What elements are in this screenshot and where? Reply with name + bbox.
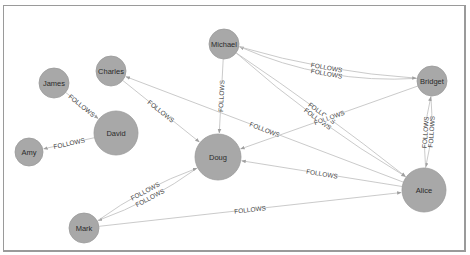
- graph-canvas[interactable]: FOLLOWSFOLLOWSFOLLOWSFOLLOWSFOLLOWSFOLLO…: [0, 0, 470, 255]
- node-bridget[interactable]: Bridget: [417, 66, 447, 96]
- edge-label: FOLLOWS: [306, 168, 339, 180]
- edge-label: FOLLOWS: [53, 136, 86, 150]
- edge-doug-to-mark[interactable]: FOLLOWS: [98, 168, 198, 221]
- edge-alice-to-charles[interactable]: FOLLOWS: [126, 77, 403, 182]
- edge-james-to-david[interactable]: FOLLOWS: [66, 92, 98, 118]
- node-label: Amy: [22, 148, 37, 157]
- node-label: Alice: [416, 186, 432, 195]
- node-amy[interactable]: Amy: [15, 138, 43, 166]
- node-label: James: [43, 79, 65, 88]
- node-michael[interactable]: Michael: [209, 29, 239, 59]
- node-label: Michael: [211, 40, 237, 49]
- nodes-layer: MichaelCharlesJamesDavidAmyDougBridgetAl…: [15, 29, 447, 243]
- edge-label: FOLLOWS: [217, 79, 226, 112]
- edge-label: FOLLOWS: [146, 98, 176, 124]
- node-david[interactable]: David: [94, 111, 138, 155]
- node-label: Doug: [209, 153, 227, 162]
- node-label: Bridget: [420, 77, 445, 86]
- edge-label: FOLLOWS: [234, 204, 267, 215]
- node-label: David: [106, 129, 125, 138]
- edge-michael-to-doug[interactable]: FOLLOWS: [217, 59, 226, 133]
- node-label: Mark: [76, 224, 93, 233]
- node-label: Charles: [98, 67, 124, 76]
- node-doug[interactable]: Doug: [195, 134, 241, 180]
- edge-bridget-to-doug[interactable]: FOLLOWS: [241, 86, 418, 149]
- edge-alice-to-doug[interactable]: FOLLOWS: [242, 161, 403, 187]
- node-alice[interactable]: Alice: [402, 168, 446, 212]
- edge-label: FOLLOWS: [67, 93, 97, 119]
- node-mark[interactable]: Mark: [69, 213, 99, 243]
- node-james[interactable]: James: [39, 68, 69, 98]
- node-charles[interactable]: Charles: [96, 56, 126, 86]
- edge-david-to-amy[interactable]: FOLLOWS: [44, 136, 95, 150]
